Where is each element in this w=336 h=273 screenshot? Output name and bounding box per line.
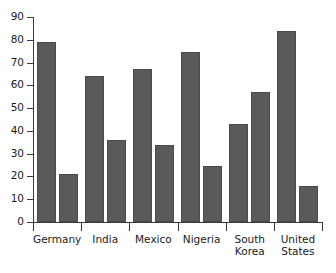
x-axis-category-label: Mexico: [129, 233, 177, 245]
y-axis-tick-label: 60: [11, 79, 24, 90]
bar: [37, 42, 56, 222]
y-axis-tick-label: 80: [11, 34, 24, 45]
y-axis-tick-label: 20: [11, 170, 24, 181]
y-axis-tick-label: 50: [11, 102, 24, 113]
bar: [277, 31, 296, 222]
group-separator-tick: [226, 223, 227, 231]
y-axis-tick-label: 0: [17, 216, 24, 227]
y-axis-tick-label: 70: [11, 57, 24, 68]
group-separator-tick: [178, 223, 179, 231]
chart-page: 0102030405060708090 GermanyIndiaMexicoNi…: [0, 0, 336, 273]
bar: [133, 69, 152, 222]
y-axis-tick-label: 40: [11, 125, 24, 136]
bar: [155, 145, 174, 222]
x-axis-category-label: South Korea: [226, 233, 274, 257]
x-axis-category-label: Nigeria: [178, 233, 226, 245]
bar: [107, 140, 126, 222]
bar: [251, 92, 270, 222]
bar: [59, 174, 78, 222]
x-axis-category-label: Germany: [33, 233, 81, 245]
y-axis-tick-label: 30: [11, 148, 24, 159]
bar: [181, 52, 200, 222]
bar: [299, 186, 318, 222]
group-separator-tick: [129, 223, 130, 231]
x-axis-end-tick: [322, 223, 323, 231]
x-axis-category-label: India: [81, 233, 129, 245]
group-separator-tick: [274, 223, 275, 231]
bar: [85, 76, 104, 222]
plot-area: [33, 17, 322, 222]
bar: [203, 166, 222, 222]
y-axis-tick-label: 10: [11, 193, 24, 204]
x-axis-start-tick: [33, 223, 34, 231]
bar: [229, 124, 248, 222]
y-axis-tick-label: 90: [11, 11, 24, 22]
x-axis-category-label: United States: [274, 233, 322, 257]
group-separator-tick: [81, 223, 82, 231]
